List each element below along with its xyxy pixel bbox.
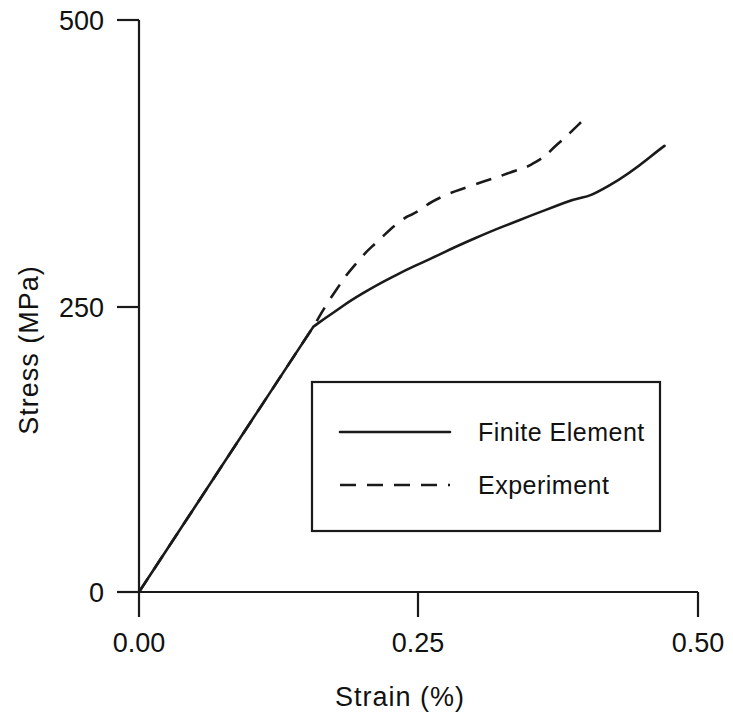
y-tick-label-0: 0 xyxy=(89,578,104,608)
x-axis-title: Strain (%) xyxy=(335,682,465,712)
stress-strain-chart: 500 250 0 0.00 0.25 0.50 Stress (MPa) St… xyxy=(0,0,733,718)
chart-canvas: 500 250 0 0.00 0.25 0.50 Stress (MPa) St… xyxy=(0,0,733,718)
y-tick-label-250: 250 xyxy=(59,293,104,323)
x-tick-label-000: 0.00 xyxy=(113,628,166,658)
legend-box xyxy=(312,382,660,531)
x-tick-label-050: 0.50 xyxy=(672,628,725,658)
y-axis-title: Stress (MPa) xyxy=(14,265,44,435)
legend-label-finite-element: Finite Element xyxy=(478,418,645,446)
x-tick-label-025: 0.25 xyxy=(392,628,445,658)
legend-label-experiment: Experiment xyxy=(478,471,609,499)
chart-legend: Finite Element Experiment xyxy=(312,382,660,531)
y-tick-label-500: 500 xyxy=(59,6,104,36)
